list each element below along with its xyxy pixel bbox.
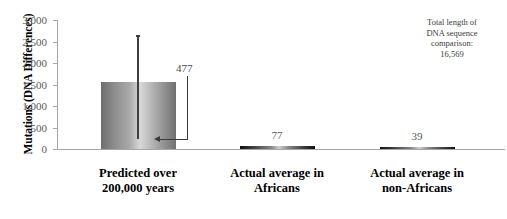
y-tick-1000: 1,000 — [53, 106, 57, 107]
y-tick-500: 500 — [53, 128, 57, 129]
error-bar-cap-top — [136, 35, 140, 37]
bar-chart: Mutations (DNA Differences) 3,000 2,500 … — [0, 0, 507, 219]
data-label-non-africans: 39 — [412, 130, 423, 142]
y-tick-0: 0 — [53, 149, 57, 150]
error-bar-predicted — [137, 35, 139, 139]
y-tick-label-2000: 2,000 — [22, 57, 47, 69]
y-tick-label-3000: 3,000 — [22, 14, 47, 26]
callout-477-vertical-line — [187, 76, 188, 139]
total-length-annotation: Total length of DNA sequence comparison:… — [405, 17, 499, 59]
y-tick-label-2500: 2,500 — [22, 36, 47, 48]
y-tick-2000: 2,000 — [53, 63, 57, 64]
y-tick-3000: 3,000 — [53, 20, 57, 21]
bar-actual-average-non-africans[interactable] — [380, 147, 455, 149]
y-tick-1500: 1,500 — [53, 85, 57, 86]
callout-477-label: 477 — [176, 62, 193, 74]
y-tick-label-1500: 1,500 — [22, 79, 47, 91]
y-tick-label-0: 0 — [42, 143, 48, 155]
y-tick-2500: 2,500 — [53, 42, 57, 43]
bar-actual-average-africans[interactable] — [240, 146, 315, 149]
data-label-africans: 77 — [272, 129, 283, 141]
callout-477-horizontal-line — [160, 139, 188, 140]
callout-477-arrow-icon — [154, 136, 160, 142]
y-axis-line — [57, 20, 58, 150]
y-tick-label-500: 500 — [31, 122, 48, 134]
category-label-non-africans: Actual average in non-Africans — [330, 166, 505, 196]
y-tick-label-1000: 1,000 — [22, 100, 47, 112]
x-axis-line — [57, 149, 505, 150]
